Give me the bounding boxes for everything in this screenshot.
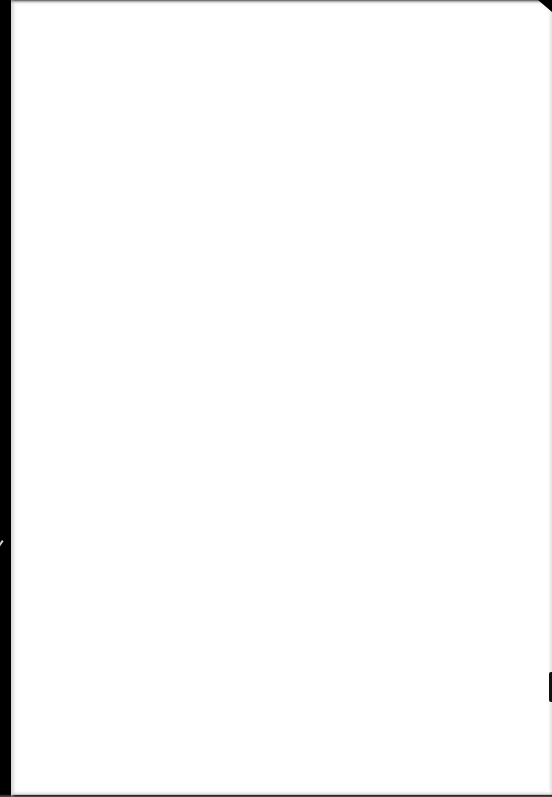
paper-left-edge-shadow	[11, 0, 15, 797]
photo-scene	[0, 0, 552, 797]
background-corner-wedge	[538, 0, 552, 12]
background-scratch-mark	[0, 540, 4, 564]
blank-paper-sheet	[11, 1, 552, 795]
paper-top-edge-shadow	[11, 0, 552, 3]
